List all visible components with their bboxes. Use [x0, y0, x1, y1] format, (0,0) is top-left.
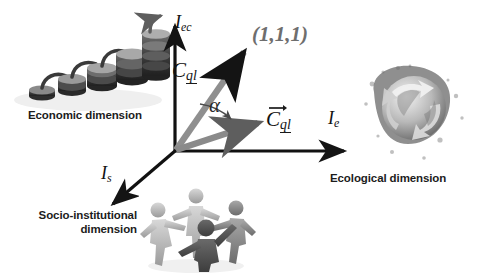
- axis-label-socio-institutional: Is: [101, 163, 112, 186]
- axis-socio-institutional: [113, 151, 175, 204]
- caption-socio-line2: dimension: [80, 223, 137, 235]
- caption-socio-institutional-dimension: Socio-institutionaldimension: [12, 208, 137, 236]
- coin-stacks-growth-photo: [14, 16, 170, 111]
- caption-socio-line1: Socio-institutional: [39, 209, 137, 221]
- globe-recycling-photo: [364, 65, 463, 160]
- vector-label-cql-actual: Cql: [266, 107, 291, 133]
- ideal-point-label: (1,1,1): [252, 22, 308, 47]
- vector-label-cql-ideal: Cql: [172, 58, 197, 84]
- caption-economic-dimension: Economic dimension: [28, 108, 142, 122]
- angle-label-alpha: α: [209, 93, 220, 118]
- diagram-canvas: Iec Ie Is Cql Cql (1,1,1) α Economic dim…: [0, 0, 478, 274]
- axis-label-ecological: Ie: [328, 108, 339, 131]
- axis-label-economic: Iec: [175, 12, 192, 35]
- people-circle-photo: [140, 189, 256, 274]
- caption-ecological-dimension: Ecological dimension: [330, 171, 446, 185]
